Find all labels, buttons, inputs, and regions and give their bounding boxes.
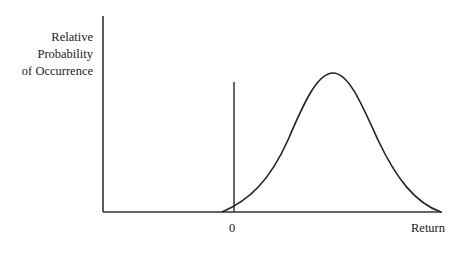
x-axis-label: Return	[411, 221, 445, 236]
chart-canvas	[0, 0, 464, 254]
x-tick-zero: 0	[229, 221, 235, 236]
distribution-curve	[222, 73, 441, 212]
